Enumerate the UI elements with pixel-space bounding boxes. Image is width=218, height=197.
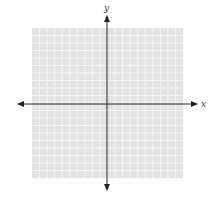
x-axis-label: x [201,99,206,109]
arrow-right-icon [191,101,198,107]
coordinate-plane: x y [0,0,218,197]
arrow-down-icon [104,184,110,191]
arrow-left-icon [17,101,24,107]
arrow-up-icon [104,15,110,22]
y-axis-label: y [103,3,110,13]
